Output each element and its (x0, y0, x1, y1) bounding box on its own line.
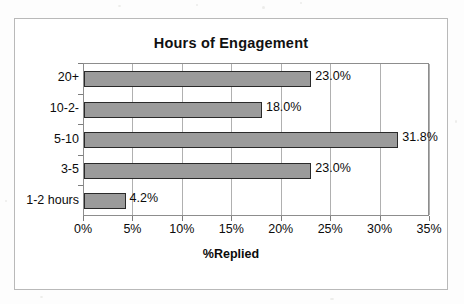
bar (84, 193, 126, 209)
y-axis-category-labels: 1-2 hours3-55-1010-2-20+ (15, 63, 79, 216)
y-axis-label: 10-2- (50, 101, 79, 115)
bar (84, 163, 311, 179)
scan-artifact (5, 200, 7, 202)
scan-artifact (455, 120, 457, 123)
y-axis-tick (78, 155, 83, 156)
bar-row: 18.0% (84, 95, 428, 126)
x-axis-tick (281, 216, 282, 221)
y-axis-tick (78, 185, 83, 186)
bar-row: 23.0% (84, 64, 428, 95)
bar (84, 132, 398, 148)
chart-outer-frame: Hours of Engagement 1-2 hours3-55-1010-2… (14, 18, 448, 290)
x-axis-tick (429, 216, 430, 221)
x-axis-tick (380, 216, 381, 221)
x-axis-tick-label: 0% (74, 222, 92, 236)
bar-value-label: 23.0% (315, 69, 350, 83)
x-axis-tick (231, 216, 232, 221)
x-axis-title: %Replied (15, 247, 447, 261)
bar (84, 71, 311, 87)
x-axis-tick-label: 5% (123, 222, 141, 236)
bar (84, 102, 262, 118)
scan-artifact (196, 4, 198, 6)
bar-row: 23.0% (84, 156, 428, 187)
scanned-page-background: Hours of Engagement 1-2 hours3-55-1010-2… (0, 0, 464, 304)
x-axis-tick-label: 30% (367, 222, 392, 236)
x-axis-tick-label: 20% (268, 222, 293, 236)
x-axis: 0%5%10%15%20%25%30%35% (83, 216, 429, 242)
y-axis-label: 5-10 (54, 132, 79, 146)
scan-artifact (118, 5, 121, 7)
x-axis-tick-label: 10% (169, 222, 194, 236)
chart-title: Hours of Engagement (15, 35, 447, 51)
scan-artifact (262, 6, 265, 9)
bar-value-label: 23.0% (315, 161, 350, 175)
plot-area: 4.2%23.0%31.8%18.0%23.0% (83, 63, 429, 216)
y-axis-label: 3-5 (61, 162, 79, 176)
y-axis-tick (78, 63, 83, 64)
x-axis-tick-label: 25% (318, 222, 343, 236)
x-axis-tick (83, 216, 84, 221)
scan-artifact (40, 296, 43, 298)
y-axis-label: 1-2 hours (26, 193, 79, 207)
bar-value-label: 31.8% (402, 130, 437, 144)
bar-row: 4.2% (84, 186, 428, 217)
x-axis-tick (330, 216, 331, 221)
scan-artifact (300, 2, 302, 4)
bar-value-label: 18.0% (266, 100, 301, 114)
bar-value-label: 4.2% (130, 191, 159, 205)
scan-artifact (330, 298, 334, 300)
x-axis-tick-label: 35% (416, 222, 441, 236)
x-axis-tick (182, 216, 183, 221)
x-axis-tick-label: 15% (219, 222, 244, 236)
y-axis-tick (78, 94, 83, 95)
bar-row: 31.8% (84, 125, 428, 156)
y-axis-tick (78, 124, 83, 125)
y-axis-label: 20+ (58, 70, 79, 84)
x-axis-tick (132, 216, 133, 221)
